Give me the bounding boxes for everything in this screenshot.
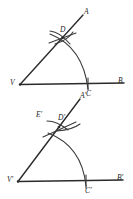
geometry-figure: A B C D V A' B' C' D' E' V' [0,0,133,199]
label-v: V [10,79,15,87]
label-b: B [118,77,123,85]
label-b-prime: B' [117,174,123,182]
bottom-vertex-point [17,180,19,182]
label-c: C [86,90,91,98]
bottom-ray-va [18,99,80,182]
label-d-prime: D' [58,114,65,122]
top-diagram-group [19,15,124,90]
bottom-diagram-group [17,99,123,188]
figure-canvas [0,0,133,199]
bottom-main-arc [48,133,86,186]
label-a-prime: A' [80,92,86,100]
label-a: A [84,8,89,16]
label-e-prime: E' [36,111,42,119]
top-ray-va [20,15,83,85]
top-vertex-point [19,83,21,85]
label-c-prime: C' [85,187,92,195]
top-ray-vb [20,83,124,85]
top-point-d [61,37,64,40]
label-d: D [60,26,65,34]
bottom-point-d [58,126,61,129]
label-v-prime: V' [7,176,13,184]
bottom-ray-vb [18,180,123,182]
